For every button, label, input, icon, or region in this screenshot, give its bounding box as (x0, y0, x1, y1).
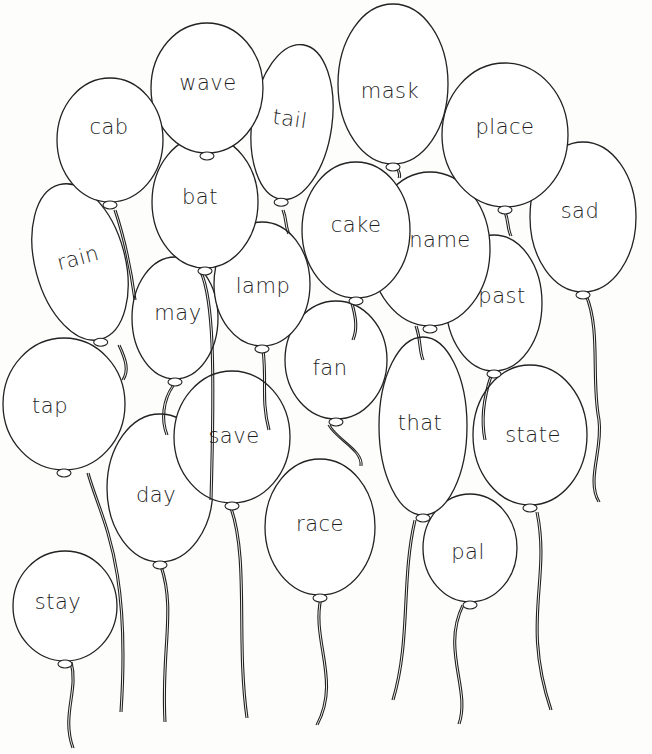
balloon-knot (225, 502, 239, 510)
balloon-string (585, 295, 599, 502)
balloon-knot (57, 469, 71, 477)
balloon-string (456, 605, 464, 724)
balloon-word: cake (331, 213, 382, 237)
balloon-word: race (296, 512, 344, 536)
balloon-word: place (476, 115, 535, 139)
balloon-stay (13, 551, 117, 748)
balloon-word: save (208, 424, 259, 448)
balloon-word: bat (182, 185, 218, 209)
balloon-word: past (478, 284, 525, 308)
balloon-knot (274, 198, 288, 206)
balloon-knot (523, 504, 537, 512)
balloon-knot (313, 594, 327, 602)
balloon-knot (198, 267, 212, 275)
balloon-string (230, 508, 246, 718)
balloon-knot (153, 561, 167, 569)
balloon-word: stay (35, 590, 81, 614)
balloon-word: mask (361, 79, 419, 103)
balloon-word: tap (32, 394, 68, 418)
balloon-word: name (409, 228, 471, 252)
balloon-body (57, 78, 163, 202)
balloon-word: wave (179, 71, 236, 95)
balloon-knot (349, 297, 363, 305)
balloon-knot (416, 514, 430, 522)
balloon-knot (386, 163, 400, 171)
balloon-knot (329, 418, 343, 426)
balloon-race (265, 459, 375, 725)
balloon-word: that (398, 411, 443, 435)
balloon-word: lamp (236, 274, 291, 298)
balloon-knot (255, 345, 269, 353)
balloon-knot (200, 152, 214, 160)
balloon-knot (58, 660, 72, 668)
balloon-knot (423, 325, 437, 333)
balloon-string (232, 508, 248, 718)
worksheet-canvas: staytapdayracesavepalstatethatfanmaylamp… (0, 0, 652, 754)
balloon-pal (423, 494, 517, 724)
balloon-knot (576, 291, 590, 299)
balloon-word: pal (451, 540, 485, 564)
balloon-word: day (136, 483, 176, 507)
balloon-knot (168, 378, 182, 386)
balloon-string (330, 425, 362, 466)
balloon-word: fan (312, 356, 347, 380)
balloon-knot (487, 370, 501, 378)
balloon-string (316, 598, 326, 725)
balloon-word: sad (561, 199, 600, 223)
balloon-string (120, 345, 127, 380)
balloon-fan (285, 301, 387, 466)
balloon-knot (94, 338, 108, 346)
balloon-word: cab (89, 115, 128, 139)
balloon-word: state (505, 423, 561, 447)
balloon-string (328, 425, 360, 466)
balloon-word: tail (271, 105, 309, 134)
balloon-knot (103, 201, 117, 209)
balloon-knot (463, 601, 477, 609)
balloon-word: may (154, 301, 201, 325)
balloon-knot (498, 206, 512, 214)
